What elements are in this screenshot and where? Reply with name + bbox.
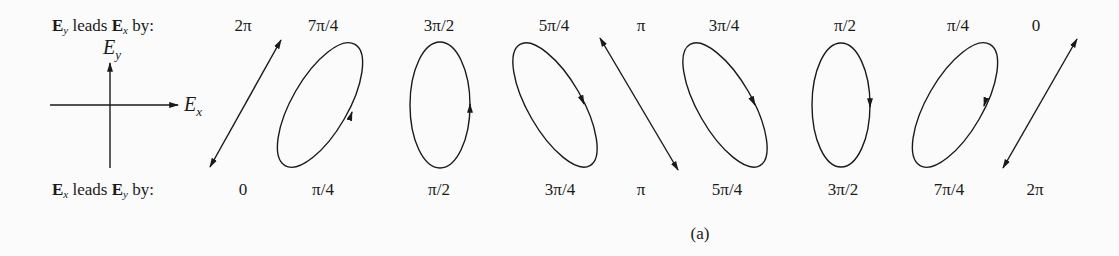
- linear-polarization-positive-icon: [210, 40, 281, 167]
- ellipse-vertical-icon: [812, 43, 870, 167]
- polarization-diagram: [0, 0, 1119, 256]
- ellipse-right-tilt-icon: [261, 30, 379, 179]
- ellipse-left-tilt-icon: [497, 31, 614, 179]
- linear-polarization-positive-icon: [1003, 39, 1077, 168]
- ellipse-right-tilt-icon: [896, 30, 1014, 179]
- ellipse-left-tilt-icon: [667, 31, 784, 179]
- coordinate-axes-icon: [50, 63, 178, 168]
- ellipse-vertical-icon: [410, 42, 470, 168]
- linear-polarization-negative-icon: [600, 38, 678, 170]
